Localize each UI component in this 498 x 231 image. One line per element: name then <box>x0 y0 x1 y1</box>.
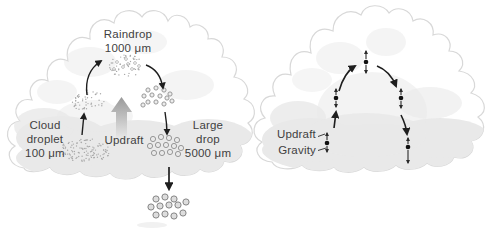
falling-rain-cluster <box>148 194 189 219</box>
cloud-droplet-label: Cloud droplet 100 μm <box>5 118 85 160</box>
large-drop-label-line1: Large <box>168 118 248 132</box>
precipitation-formation-diagram: Raindrop 1000 μm Cloud droplet 100 μm Up… <box>0 0 498 231</box>
raindrop-label-name: Raindrop <box>83 27 173 41</box>
gravity-force-label-text: Gravity <box>250 143 316 157</box>
cloud-droplet-label-size: 100 μm <box>5 146 85 160</box>
updraft-label-text: Updraft <box>84 133 164 147</box>
diagram-canvas <box>0 0 498 231</box>
large-drop-label-size: 5000 μm <box>168 146 248 160</box>
cloud-droplet-label-line1: Cloud <box>5 118 85 132</box>
raindrop-label: Raindrop 1000 μm <box>83 27 173 55</box>
rain-shadow-wisp <box>137 222 167 228</box>
updraft-force-label-text: Updraft <box>250 127 316 141</box>
gravity-force-label: Gravity <box>250 143 316 157</box>
raindrop-label-size: 1000 μm <box>83 41 173 55</box>
updraft-label: Updraft <box>84 133 164 147</box>
cloud-droplet-label-line2: droplet <box>5 132 85 146</box>
large-drop-label: Large drop 5000 μm <box>168 118 248 160</box>
large-drop-label-line2: drop <box>168 132 248 146</box>
updraft-force-label: Updraft <box>250 127 316 141</box>
